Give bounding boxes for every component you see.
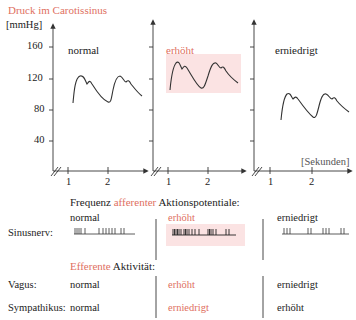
afferent-col-erniedrigt: erniedrigt (277, 212, 318, 223)
vagus-erhoeht: erhöht (168, 279, 195, 290)
x-tick-1-panel1: 1 (66, 176, 71, 187)
afferent-heading-suffix: Aktionspotentiale: (156, 196, 239, 208)
vagus-label: Vagus: (8, 279, 37, 290)
panel-label-erhoeht: erhöht (166, 44, 194, 56)
y-tick-40: 40 (34, 134, 45, 145)
y-axis-unit-label: [mmHg] (6, 19, 42, 30)
panel-label-erniedrigt: erniedrigt (275, 44, 318, 56)
spike-train-erniedrigt (282, 228, 349, 234)
vagus-normal: normal (70, 279, 100, 290)
afferent-col-erhoeht: erhöht (168, 212, 195, 223)
y-tick-120: 120 (27, 72, 43, 83)
x-tick-2-panel1: 2 (105, 176, 110, 187)
panel-label-normal: normal (68, 44, 99, 56)
x-tick-2-panel3: 2 (309, 176, 314, 187)
afferent-heading: Frequenz afferenter Aktionspotentiale: (70, 196, 240, 208)
curve-erniedrigt (281, 93, 349, 120)
sympathikus-normal: normal (70, 302, 100, 313)
sinusnerv-label: Sinusnerv: (8, 227, 53, 238)
vagus-erniedrigt: erniedrigt (277, 279, 318, 290)
sympathikus-label: Sympathikus: (8, 302, 66, 313)
afferent-heading-prefix: Frequenz (70, 196, 114, 208)
efferent-heading-suffix: Aktivität: (111, 260, 155, 272)
diagram-title: Druck im Carotissinus (8, 4, 107, 16)
efferent-heading: Efferente Aktivität: (70, 260, 155, 272)
afferent-heading-accent: afferenter (114, 196, 157, 208)
x-tick-1-panel3: 1 (268, 176, 273, 187)
afferent-col-normal: normal (70, 212, 100, 223)
sympathikus-erhoeht: erhöht (277, 302, 304, 313)
y-tick-80: 80 (34, 103, 45, 114)
y-tick-160: 160 (27, 40, 43, 51)
x-tick-1-panel2: 1 (166, 176, 171, 187)
efferent-heading-accent: Efferente (70, 260, 111, 272)
spike-train-normal (74, 228, 135, 234)
x-tick-2-panel2: 2 (205, 176, 210, 187)
sympathikus-erniedrigt: erniedrigt (168, 302, 209, 313)
curve-normal (73, 76, 142, 103)
x-axis-unit-label: [Sekunden] (301, 156, 349, 167)
panel-erhoeht-axes (149, 22, 244, 176)
